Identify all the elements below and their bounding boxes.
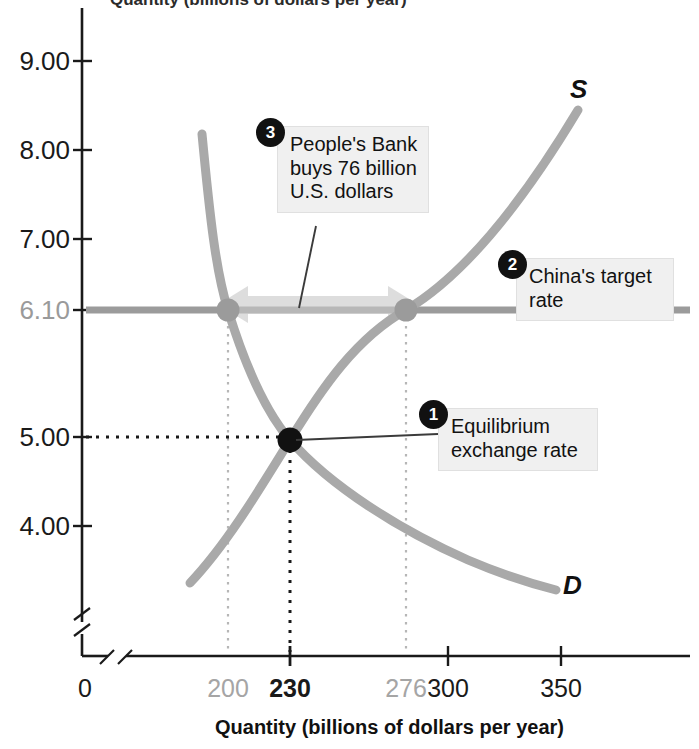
annotation-badge-3: 3 — [256, 118, 285, 147]
marker-quantity-supplied — [395, 299, 418, 322]
annotation-peoples-bank-line-1: People's Bank — [290, 133, 418, 157]
annotation-peoples-bank-line-3: U.S. dollars — [290, 180, 418, 204]
annotation-china-target: China's target rate — [516, 258, 674, 321]
marker-quantity-demanded — [217, 299, 240, 322]
y-tick-label-8: 8.00 — [0, 135, 70, 166]
x-axis — [82, 646, 690, 666]
annotation-equilibrium: Equilibrium exchange rate — [438, 408, 598, 471]
y-tick-label-6-10: 6.10 — [0, 295, 70, 326]
annotation-badge-1: 1 — [419, 400, 448, 429]
chart-figure: Quantity (billions of dollars per year) — [0, 0, 699, 749]
annotation-china-target-line-2: rate — [529, 289, 663, 313]
y-tick-label-7: 7.00 — [0, 224, 70, 255]
chart-plot-area — [0, 0, 699, 749]
annotation-equilibrium-line-2: exchange rate — [451, 439, 587, 463]
leader-line-peoples-bank — [299, 226, 316, 308]
guide-lines-muted — [228, 310, 406, 652]
annotation-china-target-line-1: China's target — [529, 265, 663, 289]
x-tick-label-0: 0 — [40, 674, 130, 703]
y-tick-label-5: 5.00 — [0, 422, 70, 453]
supply-curve-label: S — [570, 74, 587, 105]
demand-curve-label: D — [563, 570, 582, 601]
y-axis — [73, 8, 92, 656]
x-tick-label-230: 230 — [245, 674, 335, 703]
annotation-equilibrium-line-1: Equilibrium — [451, 415, 587, 439]
leader-line-equilibrium — [296, 434, 438, 440]
x-tick-label-300: 300 — [403, 674, 493, 703]
annotation-badge-2: 2 — [498, 250, 527, 279]
annotation-peoples-bank: People's Bank buys 76 billion U.S. dolla… — [277, 126, 429, 213]
x-tick-label-350: 350 — [516, 674, 606, 703]
y-tick-label-9: 9.00 — [0, 46, 70, 77]
guide-lines-equilibrium — [86, 437, 296, 652]
x-axis-title: Quantity (billions of dollars per year) — [215, 716, 564, 739]
y-tick-label-4: 4.00 — [0, 511, 70, 542]
annotation-peoples-bank-line-2: buys 76 billion — [290, 157, 418, 181]
